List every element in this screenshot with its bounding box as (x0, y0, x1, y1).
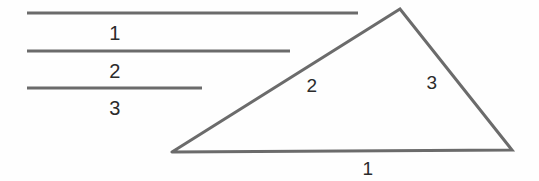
segment-label-1: 1 (109, 23, 120, 43)
segment-label-3: 3 (109, 98, 120, 118)
geometry-figure: 1 2 3 1 2 3 (0, 0, 539, 181)
figure-canvas (0, 0, 539, 181)
triangle-side-label-3: 3 (427, 73, 438, 92)
triangle-side-label-1: 1 (363, 159, 374, 178)
triangle-side-label-2: 2 (307, 76, 318, 95)
segment-label-2: 2 (109, 61, 120, 81)
triangle-outline (172, 9, 512, 152)
